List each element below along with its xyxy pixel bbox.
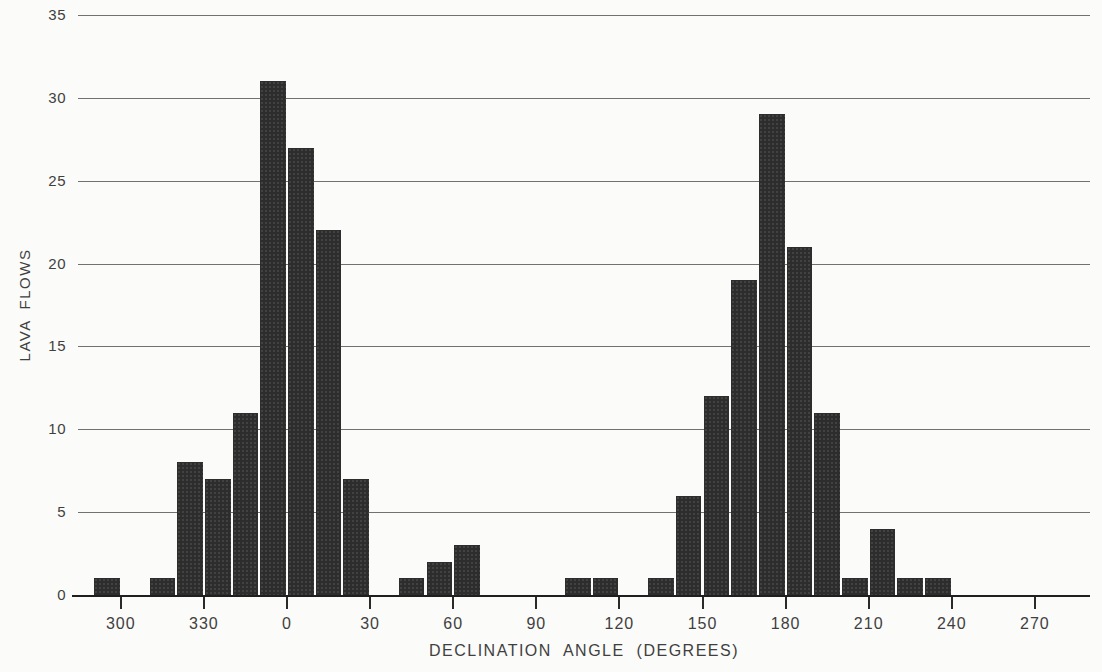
x-tick-330 [203, 597, 205, 609]
x-tick-label-150: 150 [688, 615, 718, 633]
x-tick-label-30: 30 [360, 615, 380, 633]
bar-230deg [925, 578, 951, 595]
bar-220deg [897, 578, 923, 595]
bar-160deg [731, 280, 757, 595]
bar-20deg [343, 479, 369, 595]
x-tick-label-0: 0 [282, 615, 292, 633]
x-tick-60 [452, 597, 454, 609]
bar-150deg [704, 396, 730, 595]
bar-130deg [648, 578, 674, 595]
bar-0deg [288, 148, 314, 595]
x-tick-300 [120, 597, 122, 609]
bar-60deg [454, 545, 480, 595]
x-tick-label-120: 120 [605, 615, 635, 633]
lava-flows-histogram: 0510152025303530033003060901201501802102… [0, 0, 1102, 672]
x-tick-30 [369, 597, 371, 609]
x-tick-label-300: 300 [106, 615, 136, 633]
bar-170deg [759, 114, 785, 595]
x-tick-label-180: 180 [771, 615, 801, 633]
bar-330deg [205, 479, 231, 595]
y-gridline-35 [78, 15, 1090, 16]
x-tick-label-90: 90 [526, 615, 546, 633]
y-gridline-10 [78, 429, 1090, 430]
x-tick-210 [868, 597, 870, 609]
bar-310deg [150, 578, 176, 595]
bar-40deg [399, 578, 425, 595]
x-tick-label-240: 240 [937, 615, 967, 633]
y-gridline-25 [78, 181, 1090, 182]
y-gridline-20 [78, 264, 1090, 265]
bar-110deg [593, 578, 619, 595]
bar-50deg [427, 562, 453, 595]
x-tick-label-270: 270 [1020, 615, 1050, 633]
bar-290deg [94, 578, 120, 595]
bar-340deg [233, 413, 259, 595]
bar-180deg [787, 247, 813, 595]
y-axis-title: LAVA FLOWS [15, 155, 35, 455]
x-tick-180 [785, 597, 787, 609]
x-tick-120 [618, 597, 620, 609]
bar-350deg [260, 81, 286, 595]
x-tick-150 [702, 597, 704, 609]
x-tick-label-330: 330 [189, 615, 219, 633]
y-tick-label-5: 5 [20, 503, 66, 520]
bar-200deg [842, 578, 868, 595]
y-tick-label-0: 0 [20, 586, 66, 603]
x-tick-label-210: 210 [854, 615, 884, 633]
bar-210deg [870, 529, 896, 595]
x-axis-title: DECLINATION ANGLE (DEGREES) [429, 642, 739, 660]
y-tick-label-35: 35 [20, 6, 66, 23]
bar-320deg [177, 462, 203, 595]
bar-100deg [565, 578, 591, 595]
y-gridline-30 [78, 98, 1090, 99]
bar-190deg [814, 413, 840, 595]
x-tick-90 [535, 597, 537, 609]
x-tick-270 [1034, 597, 1036, 609]
y-tick-label-30: 30 [20, 89, 66, 106]
x-tick-240 [951, 597, 953, 609]
bar-140deg [676, 496, 702, 595]
x-axis-line [72, 595, 1090, 597]
y-gridline-15 [78, 346, 1090, 347]
bar-10deg [316, 230, 342, 595]
x-tick-0 [286, 597, 288, 609]
x-tick-label-60: 60 [443, 615, 463, 633]
